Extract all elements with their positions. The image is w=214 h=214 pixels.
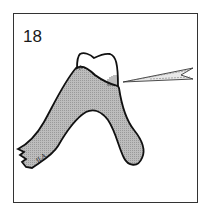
- injection-needle: [123, 68, 193, 82]
- figure-canvas: 18 JLA: [0, 0, 214, 214]
- dental-illustration: JLA: [0, 0, 214, 214]
